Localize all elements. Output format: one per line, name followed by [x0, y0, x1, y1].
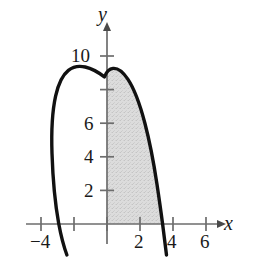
- x-tick-label--4: −4: [30, 232, 50, 251]
- y-tick-label-2: 2: [84, 181, 94, 200]
- x-tick-label-6: 6: [200, 232, 210, 251]
- x-tick-label-4: 4: [167, 232, 177, 251]
- y-tick-label-4: 4: [84, 147, 94, 166]
- x-tick-label-2: 2: [134, 232, 144, 251]
- y-tick-label-6: 6: [84, 114, 94, 133]
- y-tick-label-10: 10: [71, 46, 90, 65]
- y-axis-label: y: [98, 4, 107, 24]
- x-axis-label: x: [224, 213, 233, 233]
- parabola-area-figure: −4 2 4 6 2 4 6 10 x y: [0, 0, 259, 265]
- plot-canvas: [0, 0, 259, 265]
